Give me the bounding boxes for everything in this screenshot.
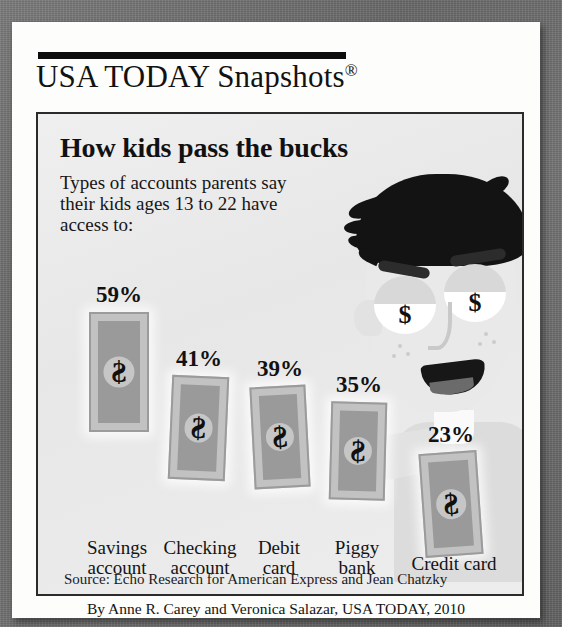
dollar-sign-icon: $ [253, 421, 306, 454]
bar-piggy-bank: $ [329, 401, 388, 500]
bar-value-piggy-bank: 35% [336, 372, 382, 398]
bar-value-credit-card: 23% [428, 422, 474, 448]
bar-savings-account: $ [89, 312, 149, 432]
snapshot-panel: How kids pass the bucks Types of account… [36, 112, 524, 596]
bar-value-checking-account: 41% [176, 346, 222, 372]
newspaper-page: USA TODAY Snapshots® How kids pass the b… [12, 22, 540, 618]
dollar-sign-icon: $ [171, 412, 225, 444]
dollar-sign-icon: $ [332, 435, 385, 466]
registered-trademark-icon: ® [345, 61, 358, 80]
masthead-rule [38, 52, 346, 59]
freckle-icon [478, 342, 482, 346]
freckle-icon [392, 354, 396, 358]
masthead-title-text: USA TODAY Snapshots [36, 59, 345, 94]
dollar-sign-icon: $ [91, 357, 147, 387]
bar-value-savings-account: 59% [96, 282, 142, 308]
page-title: How kids pass the bucks [60, 132, 348, 164]
byline: By Anne R. Carey and Veronica Salazar, U… [12, 600, 540, 618]
masthead-title: USA TODAY Snapshots® [36, 59, 358, 95]
dollar-sign-icon: $ [374, 302, 436, 328]
freckle-icon [492, 340, 496, 344]
dollar-sign-icon: $ [444, 290, 506, 316]
character-eye-right: $ [444, 264, 506, 322]
freckle-icon [398, 344, 402, 348]
bar-value-debit-card: 39% [257, 356, 303, 382]
dollar-sign-icon: $ [423, 487, 479, 521]
source-note: Source: Echo Research for American Expre… [64, 571, 447, 588]
freckle-icon [484, 332, 488, 336]
bar-credit-card: $ [418, 450, 483, 558]
character-eye-left: $ [374, 276, 436, 334]
freckle-icon [406, 352, 410, 356]
hair-spike-icon [344, 219, 379, 235]
bar-checking-account: $ [168, 375, 229, 481]
bar-debit-card: $ [249, 385, 310, 490]
subtitle: Types of accounts parents say their kids… [60, 172, 320, 235]
